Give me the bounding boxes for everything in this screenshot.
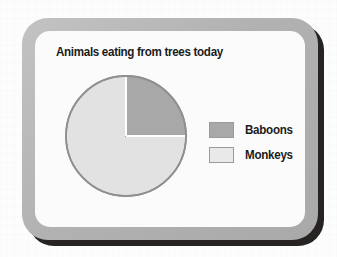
legend-swatch-baboons (209, 122, 234, 138)
legend-item-baboons[interactable]: Baboons (209, 119, 296, 141)
pie-chart (64, 74, 188, 198)
pie-chart-svg (64, 74, 188, 198)
legend-item-monkeys[interactable]: Monkeys (209, 144, 296, 166)
slide-card-interior: Animals eating from trees today Baboons (35, 31, 305, 227)
legend-swatch-monkeys (209, 147, 234, 163)
chart-title: Animals eating from trees today (56, 45, 223, 59)
legend-label-baboons: Baboons (245, 123, 293, 137)
chart-legend: Baboons Monkeys (209, 119, 296, 169)
legend-label-monkeys: Monkeys (245, 148, 293, 162)
slide-card: Animals eating from trees today Baboons (22, 18, 318, 240)
